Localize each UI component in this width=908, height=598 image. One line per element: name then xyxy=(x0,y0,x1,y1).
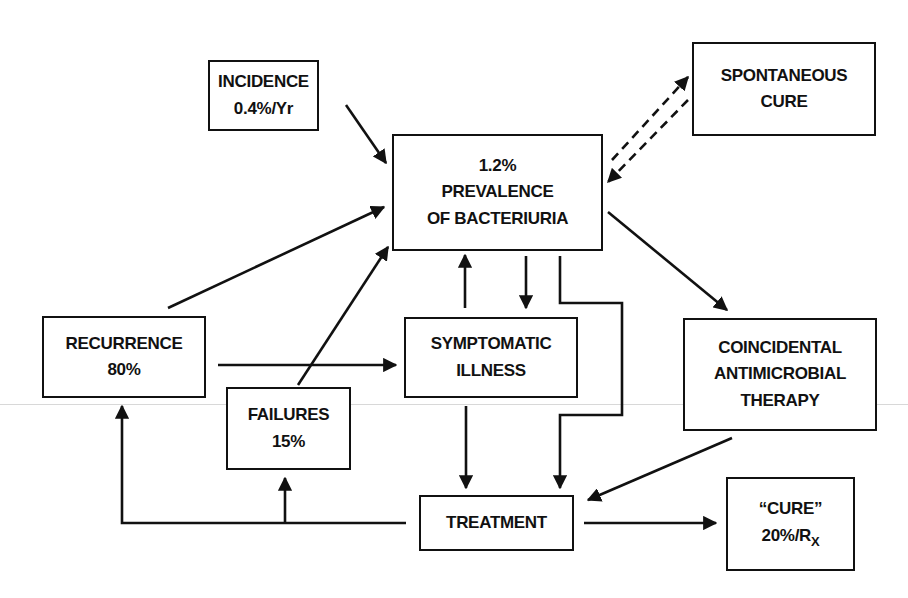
failures-rate: 15% xyxy=(272,429,305,455)
symptomatic-label-2: ILLNESS xyxy=(456,358,526,384)
treatment-label: TREATMENT xyxy=(446,510,547,536)
coincidental-label-1: COINCIDENTAL xyxy=(718,335,842,361)
cure-rate: 20%/RX xyxy=(762,523,820,552)
arrow-prevalence-to-coincidental xyxy=(608,212,727,310)
node-prevalence: 1.2% PREVALENCE OF BACTERIURIA xyxy=(392,134,603,251)
cure-rate-main: 20%/R xyxy=(762,526,812,545)
spontaneous-cure-label-1: SPONTANEOUS xyxy=(721,63,848,89)
symptomatic-label-1: SYMPTOMATIC xyxy=(431,331,552,357)
arrow-prevalence-to-spontaneous-cure xyxy=(612,77,688,160)
node-failures: FAILURES 15% xyxy=(226,387,351,470)
node-recurrence: RECURRENCE 80% xyxy=(42,316,206,398)
node-coincidental-therapy: COINCIDENTAL ANTIMICROBIAL THERAPY xyxy=(683,318,877,431)
node-cure: “CURE” 20%/RX xyxy=(726,477,855,571)
arrow-coincidental-to-treatment xyxy=(588,438,732,500)
arrow-spontaneous-cure-to-prevalence xyxy=(608,100,688,182)
prevalence-value: 1.2% xyxy=(479,153,517,179)
arrow-recurrence-to-prevalence xyxy=(168,207,384,308)
spontaneous-cure-label-2: CURE xyxy=(761,89,808,115)
failures-label: FAILURES xyxy=(248,402,330,428)
node-incidence: INCIDENCE 0.4%/Yr xyxy=(208,60,319,131)
prevalence-label-2: OF BACTERIURIA xyxy=(427,206,568,232)
node-symptomatic-illness: SYMPTOMATIC ILLNESS xyxy=(404,317,578,398)
coincidental-label-3: THERAPY xyxy=(740,388,819,414)
cure-label: “CURE” xyxy=(759,496,822,522)
recurrence-label: RECURRENCE xyxy=(66,331,183,357)
cure-rate-subscript: X xyxy=(811,534,819,549)
recurrence-rate: 80% xyxy=(107,357,140,383)
prevalence-label-1: PREVALENCE xyxy=(442,179,554,205)
incidence-rate: 0.4%/Yr xyxy=(234,96,293,122)
arrow-incidence-to-prevalence xyxy=(346,105,386,163)
incidence-label: INCIDENCE xyxy=(218,69,309,95)
coincidental-label-2: ANTIMICROBIAL xyxy=(714,361,846,387)
node-treatment: TREATMENT xyxy=(419,495,574,551)
node-spontaneous-cure: SPONTANEOUS CURE xyxy=(692,42,876,136)
